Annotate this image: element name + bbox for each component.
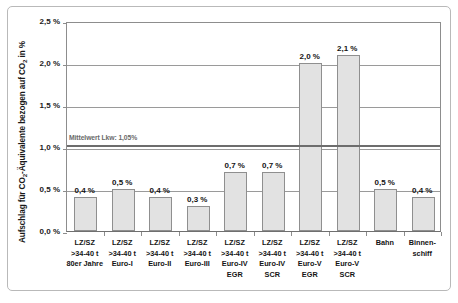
bar[interactable] bbox=[224, 172, 247, 231]
x-category-line: >34-40 t bbox=[323, 249, 371, 260]
x-tick-mark bbox=[254, 232, 255, 236]
reference-line-label: Mittelwert Lkw: 1,05% bbox=[69, 134, 137, 141]
bar[interactable] bbox=[112, 189, 135, 231]
x-tick-mark bbox=[104, 232, 105, 236]
x-tick-mark bbox=[404, 232, 405, 236]
y-tick-label: 1,5 % bbox=[20, 101, 60, 110]
bar-value-label: 0,4 % bbox=[61, 186, 109, 195]
bar[interactable] bbox=[299, 63, 322, 231]
y-tick-mark bbox=[63, 233, 67, 234]
x-tick-mark bbox=[441, 232, 442, 236]
bar[interactable] bbox=[412, 197, 435, 231]
gridline bbox=[67, 149, 440, 150]
y-tick-mark bbox=[63, 149, 67, 150]
y-tick-mark bbox=[63, 65, 67, 66]
y-tick-label: 2,0 % bbox=[20, 59, 60, 68]
x-tick-mark bbox=[179, 232, 180, 236]
x-tick-mark bbox=[216, 232, 217, 236]
chart-figure: Aufschlag für CO2-Äquivalente bezogen au… bbox=[0, 0, 458, 303]
bar[interactable] bbox=[337, 55, 360, 231]
x-category-line: Euro-V bbox=[323, 259, 371, 270]
x-category-line: schiff bbox=[398, 249, 446, 260]
gridline bbox=[67, 65, 440, 66]
plot-area: Mittelwert Lkw: 1,05% bbox=[66, 22, 441, 232]
bar-value-label: 0,7 % bbox=[248, 161, 296, 170]
bar[interactable] bbox=[262, 172, 285, 231]
x-category-line: Binnen- bbox=[398, 238, 446, 249]
bar[interactable] bbox=[187, 206, 210, 231]
bar[interactable] bbox=[374, 189, 397, 231]
bar[interactable] bbox=[74, 197, 97, 231]
x-tick-mark bbox=[291, 232, 292, 236]
bar-value-label: 2,1 % bbox=[323, 44, 371, 53]
bar-value-label: 2,0 % bbox=[286, 52, 334, 61]
y-tick-label: 1,0 % bbox=[20, 143, 60, 152]
x-category-label: Binnen-schiff bbox=[398, 238, 446, 259]
gridline bbox=[67, 107, 440, 108]
y-tick-label: 0,5 % bbox=[20, 185, 60, 194]
reference-line bbox=[67, 145, 440, 147]
x-tick-mark bbox=[366, 232, 367, 236]
y-tick-mark bbox=[63, 107, 67, 108]
bar-value-label: 0,4 % bbox=[398, 186, 446, 195]
bar[interactable] bbox=[149, 197, 172, 231]
x-tick-mark bbox=[141, 232, 142, 236]
y-tick-label: 0,0 % bbox=[20, 227, 60, 236]
bar-value-label: 0,3 % bbox=[173, 195, 221, 204]
x-tick-mark bbox=[329, 232, 330, 236]
y-tick-label: 2,5 % bbox=[20, 17, 60, 26]
y-tick-mark bbox=[63, 23, 67, 24]
x-category-line: SCR bbox=[323, 270, 371, 281]
